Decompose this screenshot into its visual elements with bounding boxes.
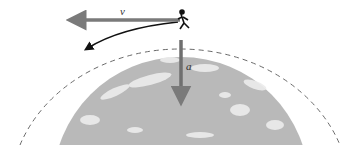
trajectory-arrow xyxy=(88,22,178,48)
orbit-diagram xyxy=(0,0,353,155)
velocity-label: v xyxy=(120,5,125,17)
acceleration-label: a xyxy=(186,60,192,72)
